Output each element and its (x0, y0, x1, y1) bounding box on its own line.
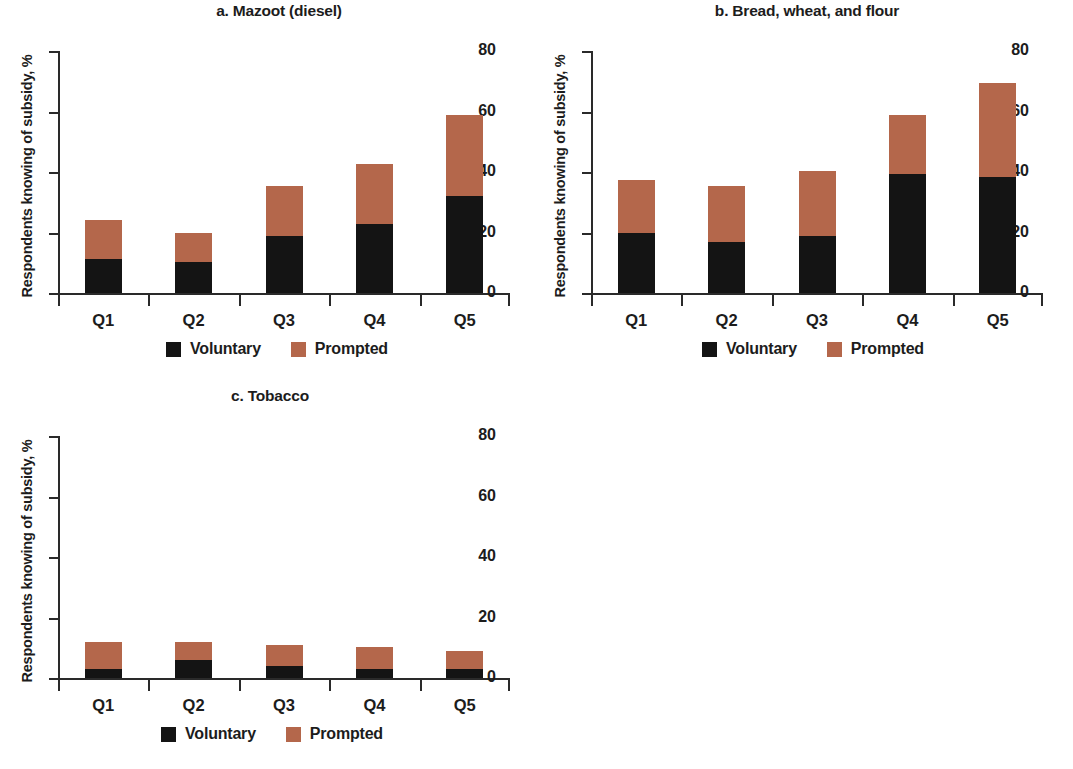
panel-c-title: c. Tobacco (0, 387, 520, 405)
bar-q4[interactable] (889, 115, 926, 293)
bar-q2[interactable] (175, 233, 212, 294)
bar-segment-voluntary (266, 666, 303, 678)
x-tick-label-q4: Q4 (339, 311, 409, 330)
panel-a-mazoot: a. Mazoot (diesel) Respondents knowing o… (0, 0, 520, 380)
bar-q3[interactable] (799, 171, 836, 293)
bar-segment-prompted (175, 233, 212, 262)
bar-segment-voluntary (618, 233, 655, 294)
legend-item-prompted[interactable]: Prompted (291, 340, 388, 358)
x-tick-mark (239, 295, 241, 306)
bar-segment-prompted (979, 83, 1016, 176)
bar-segment-voluntary (799, 236, 836, 293)
y-tick-mark (582, 172, 592, 174)
bar-segment-prompted (708, 186, 745, 242)
legend-swatch-voluntary-icon (166, 342, 181, 357)
y-tick-mark (49, 233, 59, 235)
bar-segment-voluntary (266, 236, 303, 293)
x-tick-label-q4: Q4 (339, 696, 409, 715)
x-tick-mark (148, 295, 150, 306)
x-tick-mark (591, 295, 593, 306)
panel-a-plot-area: 020406080 Q1Q2Q3Q4Q5 (58, 51, 510, 293)
bar-segment-prompted (889, 115, 926, 174)
bar-q1[interactable] (85, 642, 122, 678)
x-tick-label-q2: Q2 (159, 311, 229, 330)
bar-segment-voluntary (446, 196, 483, 293)
x-tick-label-q3: Q3 (249, 311, 319, 330)
bar-segment-voluntary (446, 669, 483, 678)
panel-b-legend: Voluntary Prompted (533, 340, 1053, 358)
y-tick-mark (49, 51, 59, 53)
y-tick-mark (49, 436, 59, 438)
bar-segment-prompted (356, 164, 393, 224)
legend-label-voluntary: Voluntary (185, 725, 256, 743)
bar-segment-prompted (446, 651, 483, 669)
x-tick-label-q1: Q1 (601, 311, 671, 330)
x-tick-label-q3: Q3 (782, 311, 852, 330)
legend-item-voluntary[interactable]: Voluntary (161, 725, 256, 743)
bar-segment-voluntary (889, 174, 926, 293)
legend-item-prompted[interactable]: Prompted (827, 340, 924, 358)
bar-q4[interactable] (356, 164, 393, 293)
y-tick-label: 60 (448, 487, 496, 505)
panel-b-x-axis-line (591, 293, 1043, 295)
figure-three-panel-stacked-bars: a. Mazoot (diesel) Respondents knowing o… (0, 0, 1073, 769)
panel-b-plot-area: 020406080 Q1Q2Q3Q4Q5 (591, 51, 1043, 293)
bar-q2[interactable] (175, 642, 212, 678)
bar-q5[interactable] (446, 651, 483, 678)
panel-a-x-axis-line (58, 293, 510, 295)
bar-segment-voluntary (356, 669, 393, 678)
x-tick-mark (239, 680, 241, 691)
x-tick-mark (420, 295, 422, 306)
x-tick-mark (329, 680, 331, 691)
x-tick-mark (329, 295, 331, 306)
panel-a-title: a. Mazoot (diesel) (0, 2, 520, 20)
bar-q1[interactable] (618, 180, 655, 293)
bar-q5[interactable] (446, 115, 483, 293)
bar-q2[interactable] (708, 186, 745, 293)
bar-q5[interactable] (979, 83, 1016, 293)
panel-b-y-axis-label: Respondents knowing of subsidy, % (552, 46, 568, 306)
bar-segment-voluntary (175, 660, 212, 678)
legend-item-voluntary[interactable]: Voluntary (702, 340, 797, 358)
legend-swatch-prompted-icon (827, 342, 842, 357)
bar-q3[interactable] (266, 186, 303, 293)
y-tick-label: 20 (448, 608, 496, 626)
bar-segment-prompted (446, 115, 483, 197)
legend-label-voluntary: Voluntary (190, 340, 261, 358)
bar-segment-voluntary (85, 259, 122, 293)
x-tick-label-q5: Q5 (963, 311, 1033, 330)
bar-segment-prompted (175, 642, 212, 660)
y-tick-mark (582, 112, 592, 114)
y-tick-mark (49, 112, 59, 114)
bar-q1[interactable] (85, 220, 122, 294)
panel-a-y-axis-label: Respondents knowing of subsidy, % (19, 46, 35, 306)
legend-swatch-prompted-icon (291, 342, 306, 357)
bar-q4[interactable] (356, 647, 393, 678)
legend-label-prompted: Prompted (315, 340, 388, 358)
y-tick-label: 80 (448, 41, 496, 59)
x-tick-label-q1: Q1 (68, 311, 138, 330)
x-tick-mark (148, 680, 150, 691)
y-tick-mark (49, 618, 59, 620)
y-tick-label: 40 (448, 547, 496, 565)
legend-item-voluntary[interactable]: Voluntary (166, 340, 261, 358)
x-tick-label-q3: Q3 (249, 696, 319, 715)
panel-c-x-axis-line (58, 678, 510, 680)
y-tick-mark (582, 233, 592, 235)
legend-label-prompted: Prompted (851, 340, 924, 358)
legend-item-prompted[interactable]: Prompted (286, 725, 383, 743)
x-tick-label-q2: Q2 (159, 696, 229, 715)
bar-segment-voluntary (708, 242, 745, 293)
bar-segment-voluntary (356, 224, 393, 293)
legend-swatch-prompted-icon (286, 727, 301, 742)
x-tick-label-q5: Q5 (430, 696, 500, 715)
x-tick-mark (1041, 295, 1043, 306)
x-tick-mark (508, 295, 510, 306)
bar-segment-prompted (266, 645, 303, 666)
x-tick-mark (508, 680, 510, 691)
y-tick-label: 80 (448, 426, 496, 444)
x-tick-label-q5: Q5 (430, 311, 500, 330)
x-tick-mark (862, 295, 864, 306)
bar-q3[interactable] (266, 645, 303, 678)
panel-c-tobacco: c. Tobacco Respondents knowing of subsid… (0, 385, 520, 765)
